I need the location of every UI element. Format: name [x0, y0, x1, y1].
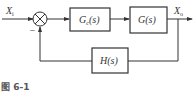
output-label: Xo — [173, 5, 183, 17]
svg-text:G(s): G(s) — [138, 14, 156, 26]
minus-sign: − — [29, 25, 36, 36]
summing-junction — [33, 12, 47, 26]
svg-text:H(s): H(s) — [99, 55, 118, 67]
figure-caption: 图 6-1 — [1, 82, 29, 92]
plant-block: G(s) — [130, 7, 167, 33]
controller-block: Gc(s) — [70, 8, 110, 31]
block-diagram: Xi − Gc(s) G(s) Xo H(s) 图 6-1 — [0, 0, 193, 95]
feedback-path-left — [40, 27, 92, 61]
feedback-block: H(s) — [92, 48, 128, 73]
input-label: Xi — [5, 5, 14, 17]
svg-text:Gc(s): Gc(s) — [79, 14, 100, 26]
